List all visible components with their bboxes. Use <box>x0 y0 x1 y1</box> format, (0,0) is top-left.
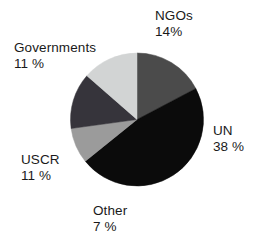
pie-label-governments-value: 11 % <box>14 56 96 72</box>
pie-label-uscr-value: 11 % <box>21 168 60 184</box>
pie-label-governments-name: Governments <box>14 40 96 56</box>
pie-label-uscr: USCR 11 % <box>21 152 60 183</box>
pie-label-uscr-name: USCR <box>21 152 60 168</box>
pie-label-un: UN 38 % <box>213 123 244 154</box>
pie-label-un-name: UN <box>213 123 244 139</box>
pie-label-ngos-value: 14% <box>155 24 193 40</box>
pie-label-un-value: 38 % <box>213 139 244 155</box>
pie-label-ngos: NGOs 14% <box>155 8 193 39</box>
pie-label-other-name: Other <box>93 203 127 219</box>
pie-chart-figure: NGOs 14% Governments 11 % UN 38 % USCR 1… <box>0 0 264 245</box>
pie-label-other-value: 7 % <box>93 219 127 235</box>
pie-label-other: Other 7 % <box>93 203 127 234</box>
pie-label-ngos-name: NGOs <box>155 8 193 24</box>
pie-label-governments: Governments 11 % <box>14 40 96 71</box>
